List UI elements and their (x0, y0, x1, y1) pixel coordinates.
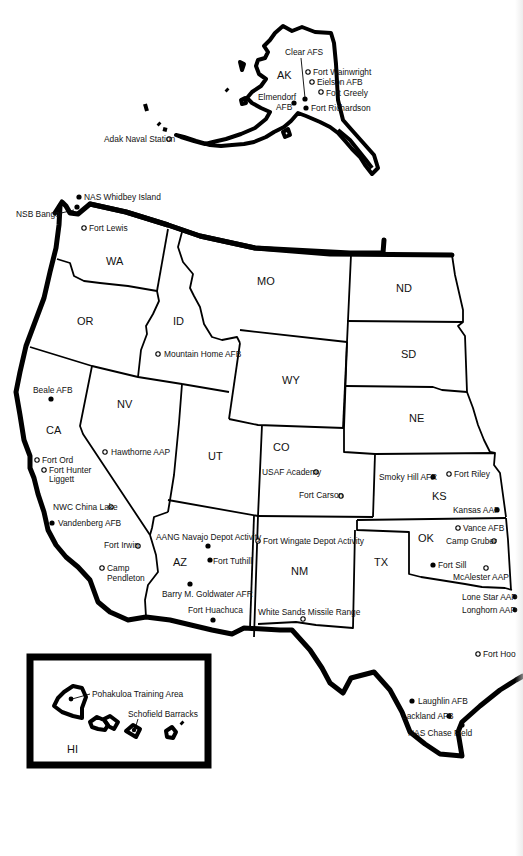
state-label-ok: OK (418, 532, 435, 544)
marker-fort-wainwright[interactable] (306, 70, 310, 74)
label-fort-sill: Fort Sill (438, 560, 467, 570)
state-label-id: ID (173, 315, 184, 327)
alaska-island-1 (283, 129, 290, 137)
label-fort-hood: Fort Hoo (483, 649, 516, 659)
marker-hawthorne-aap[interactable] (103, 450, 107, 454)
label-fort-carson: Fort Carson (299, 490, 344, 500)
marker-clear-afs[interactable] (302, 96, 307, 101)
label-fort-wainwright: Fort Wainwright (313, 67, 372, 77)
state-label-wy: WY (282, 374, 300, 386)
marker-white-sands[interactable] (301, 617, 305, 621)
state-label-ak: AK (277, 69, 292, 81)
border-nd-sd (347, 321, 463, 322)
marker-vandenberg-afb[interactable] (49, 520, 54, 525)
marker-mcalester-aap[interactable] (484, 566, 488, 570)
border-or-id (138, 291, 159, 377)
marker-fort-riley[interactable] (447, 472, 451, 476)
label-adak: Adak Naval Station (104, 134, 176, 144)
label-tuthill: Fort Tuthill (213, 556, 252, 566)
state-label-or: OR (77, 315, 94, 327)
marker-schofield-barracks[interactable] (132, 728, 136, 732)
label-pendleton-2: Pendleton (107, 573, 145, 583)
marker-fort-lewis[interactable] (82, 226, 86, 230)
marker-barry-m-goldwater-afr[interactable] (187, 581, 192, 586)
alaska-island-2 (241, 98, 246, 104)
label-smoky-hill: Smoky Hill AFR (379, 472, 437, 482)
label-lackland: Lackland AFB (402, 711, 454, 721)
label-pendleton-1: Camp (107, 563, 130, 573)
label-lone-star: Lone Star AAP (462, 592, 517, 602)
label-hawthorne: Hawthorne AAP (111, 447, 171, 457)
border-ca-az (145, 535, 158, 617)
border-id-mt (178, 232, 240, 343)
label-pohakuloa: Pohakuloa Training Area (92, 689, 184, 699)
marker-laughlin-afb[interactable] (409, 698, 414, 703)
label-chase-field: NAS Chase Field (408, 728, 473, 738)
label-white-sands: White Sands Missile Range (258, 607, 361, 617)
border-ut-co (254, 425, 262, 637)
marker-fort-tuthill[interactable] (207, 557, 212, 562)
label-fort-greely: Fort Greely (326, 88, 369, 98)
alaska-island-4 (226, 89, 228, 91)
label-fort-richardson: Fort Richardson (311, 103, 371, 113)
site-labels: Clear AFS Fort Wainwright Eielson AFB Fo… (16, 47, 517, 738)
border-mt-wy (240, 330, 347, 342)
label-fort-ord: Fort Ord (42, 455, 74, 465)
border-ne-east (467, 392, 495, 453)
marker-camp-pendleton[interactable] (100, 566, 104, 570)
label-fort-irwin: Fort Irwin (104, 540, 139, 550)
label-fort-lewis: Fort Lewis (89, 223, 128, 233)
marker-fort-hood[interactable] (476, 652, 480, 656)
label-navajo: AANG Navajo Depot Activity (156, 532, 262, 542)
label-bangor: NSB Bangor (16, 209, 63, 219)
border-ks-ok (357, 518, 506, 520)
label-vance: Vance AFB (463, 523, 505, 533)
label-elmendorf-1: Elmendorf (258, 92, 297, 102)
marker-pohakuloa[interactable] (69, 697, 74, 702)
state-label-hi: HI (67, 743, 78, 755)
border-ne-co (344, 428, 375, 454)
state-label-ks: KS (432, 490, 447, 502)
alaska-island-3 (240, 62, 244, 70)
label-wingate: Fort Wingate Depot Activity (263, 536, 365, 546)
marker-fort-hunter-liggett[interactable] (42, 468, 46, 472)
label-vandenberg: Vandenberg AFB (58, 518, 122, 528)
border-ut-az (168, 500, 258, 516)
canada-border (90, 204, 452, 255)
installations-map: AK (0, 0, 523, 856)
state-label-wa: WA (106, 255, 124, 267)
border-nd-mn (452, 255, 467, 392)
marker-nas-chase-field[interactable] (459, 722, 464, 727)
label-clear-afs: Clear AFS (285, 47, 324, 57)
border-wy-south (229, 419, 344, 428)
label-huachuca: Fort Huachuca (188, 605, 243, 615)
state-label-tx: TX (374, 556, 389, 568)
marker-fort-ord[interactable] (35, 458, 39, 462)
border-id-ut (182, 384, 229, 392)
label-hunter-liggett-2: Liggett (49, 474, 75, 484)
marker-aang-navajo-depot[interactable] (205, 543, 210, 548)
marker-mountain-home-afb[interactable] (156, 352, 160, 356)
state-label-ut: UT (208, 450, 223, 462)
marker-fort-huachuca[interactable] (210, 617, 215, 622)
label-beale: Beale AFB (33, 385, 73, 395)
alaska-island-5 (145, 104, 147, 111)
marker-fort-richardson[interactable] (303, 105, 308, 110)
marker-nas-whidbey-island[interactable] (76, 194, 81, 199)
state-labels: WA OR ID MO ND SD WY NE CA NV UT CO KS O… (46, 255, 447, 577)
marker-vance-afb[interactable] (456, 526, 460, 530)
state-label-nv: NV (117, 398, 133, 410)
marker-fort-sill[interactable] (430, 562, 435, 567)
label-china-lake: NWC China Lake (53, 502, 118, 512)
state-label-co: CO (273, 441, 290, 453)
label-longhorn: Longhorn AAP (462, 605, 516, 615)
marker-fort-greely[interactable] (319, 90, 323, 94)
state-label-ne: NE (409, 412, 424, 424)
marker-nsb-bangor[interactable] (74, 204, 79, 209)
marker-beale-afb[interactable] (48, 396, 53, 401)
state-label-nd: ND (396, 282, 412, 294)
hawaii-niihau (181, 722, 183, 724)
marker-eielson-afb[interactable] (310, 80, 314, 84)
border-co-nm (258, 516, 373, 517)
border-sd-ne (346, 386, 467, 392)
